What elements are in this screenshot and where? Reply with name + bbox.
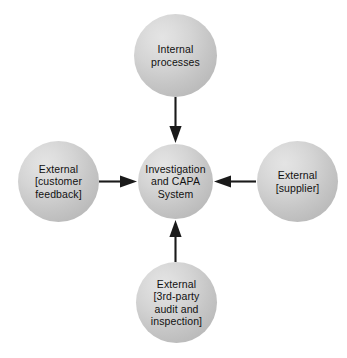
node-external-3rd-party-audit-and-inspection[interactable]: External [3rd-party audit and inspection… <box>136 262 217 343</box>
node-external-supplier[interactable]: External [supplier] <box>257 141 338 222</box>
arrow-customer-feedback-to-center <box>99 175 137 187</box>
node-external-customer-feedback[interactable]: External [customer feedback] <box>18 141 99 222</box>
arrow-3rd-party-audit-to-center <box>169 220 181 262</box>
diagram-canvas: Internal processes External [customer fe… <box>0 0 347 358</box>
node-external-3rd-party-audit-and-inspection-label: External [3rd-party audit and inspection… <box>147 278 206 328</box>
node-investigation-and-capa-system[interactable]: Investigation and CAPA System <box>138 144 213 219</box>
node-internal-processes-label: Internal processes <box>147 43 204 68</box>
arrow-internal-processes-to-center <box>169 97 181 143</box>
node-internal-processes[interactable]: Internal processes <box>134 14 217 97</box>
node-investigation-and-capa-system-label: Investigation and CAPA System <box>141 163 209 200</box>
node-external-customer-feedback-label: External [customer feedback] <box>31 163 86 200</box>
node-external-supplier-label: External [supplier] <box>272 169 324 194</box>
arrow-supplier-to-center <box>214 175 256 187</box>
